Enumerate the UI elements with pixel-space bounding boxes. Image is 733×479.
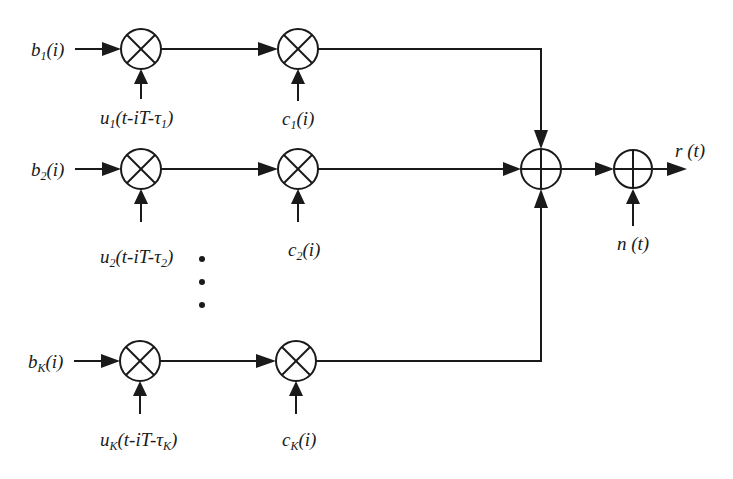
ellipsis-dots	[199, 256, 205, 308]
noise-label: n (t)	[617, 233, 649, 255]
route-to-adder-k	[316, 203, 541, 361]
multiplier-2b	[278, 149, 318, 189]
row-2: b2(i) u2(t-iT-τ2) c2(i)	[31, 149, 521, 270]
code-label-cK: cK(i)	[282, 429, 316, 453]
arrowhead-icon	[256, 354, 276, 368]
arrowhead-icon	[626, 189, 640, 204]
multiplier-kb	[276, 341, 316, 381]
arrowhead-icon	[101, 354, 120, 368]
arrowhead-icon	[289, 381, 303, 396]
waveform-label-u2: u2(t-iT-τ2)	[100, 246, 173, 270]
arrowhead-icon	[102, 162, 121, 176]
input-label-b1: b1(i)	[31, 39, 64, 63]
input-label-bK: bK(i)	[28, 351, 63, 375]
row-1: b1(i) u1(t-iT-τ1) c1(i)	[31, 29, 548, 149]
multiplier-ka	[120, 341, 160, 381]
arrowhead-icon	[291, 189, 305, 204]
arrowhead-icon	[134, 189, 148, 204]
arrowhead-icon	[503, 162, 521, 176]
multiplier-2a	[121, 149, 161, 189]
waveform-label-u1: u1(t-iT-τ1)	[100, 107, 173, 131]
arrowhead-icon	[102, 42, 121, 56]
code-label-c2: c2(i)	[288, 239, 320, 263]
arrowhead-icon	[667, 162, 687, 176]
arrowhead-icon	[134, 69, 148, 84]
code-label-c1: c1(i)	[282, 108, 314, 132]
output-label: r (t)	[675, 140, 705, 162]
row-k: bK(i) uK(t-iT-τK) cK(i)	[28, 189, 548, 453]
arrowhead-icon	[534, 130, 548, 149]
arrowhead-icon	[291, 69, 305, 84]
multiplier-1a	[121, 29, 161, 69]
block-diagram: b1(i) u1(t-iT-τ1) c1(i) b2(i)	[0, 0, 733, 479]
arrowhead-icon	[534, 189, 548, 208]
route-to-adder-1	[318, 49, 541, 135]
arrowhead-icon	[133, 381, 147, 396]
arrowhead-icon	[595, 162, 614, 176]
adder-users	[521, 149, 561, 189]
multiplier-1b	[278, 29, 318, 69]
waveform-label-uK: uK(t-iT-τK)	[100, 429, 177, 453]
arrowhead-icon	[258, 42, 278, 56]
arrowhead-icon	[258, 162, 278, 176]
adder-noise	[614, 150, 652, 188]
input-label-b2: b2(i)	[31, 159, 64, 183]
